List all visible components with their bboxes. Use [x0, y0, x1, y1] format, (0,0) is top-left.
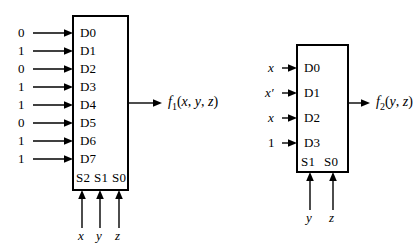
- mux8to1-output-wire: [128, 99, 162, 107]
- mux8to1-port-s1: S1: [94, 171, 108, 184]
- mux8to1-input-value-d6: 1: [18, 134, 25, 147]
- mux4to1-port-d0: D0: [304, 61, 320, 74]
- mux8to1-input-value-d4: 1: [18, 98, 25, 111]
- multiplexer-diagram-figure: 0 1 0 1 1 0 1 1 D0 D1 D2 D3 D4 D5 D6 D7 …: [0, 0, 420, 244]
- mux4to1-input-value-d2: x: [268, 111, 274, 124]
- mux8to1-output-paren-close: ): [213, 94, 218, 109]
- mux8to1-output-comma-1: ,: [188, 94, 195, 109]
- diagram-vector-layer: [0, 0, 420, 244]
- mux8to1-input-value-d5: 0: [18, 116, 25, 129]
- mux4to1-select-input-y: y: [306, 211, 312, 224]
- mux8to1-input-value-d7: 1: [18, 152, 25, 165]
- mux8to1-output-label: f1(x, y, z): [168, 95, 218, 112]
- mux4to1-output-comma-1: ,: [396, 94, 403, 109]
- mux4to1-select-input-z: z: [329, 211, 334, 224]
- mux8to1-select-input-x: x: [78, 229, 84, 242]
- mux8to1-select-wires: [78, 190, 123, 228]
- mux8to1-port-s0: S0: [112, 171, 126, 184]
- mux4to1-input-value-d1: x′: [265, 86, 274, 99]
- mux8to1-port-d6: D6: [80, 134, 96, 147]
- mux8to1-input-value-d2: 0: [18, 62, 25, 75]
- mux8to1-port-d7: D7: [80, 152, 96, 165]
- mux4to1-output-wire: [348, 99, 370, 107]
- mux8to1-port-s2: S2: [76, 171, 90, 184]
- mux8to1-select-input-z: z: [115, 229, 120, 242]
- mux8to1-data-input-wires: [33, 29, 73, 163]
- mux4to1-output-paren-close: ): [408, 94, 413, 109]
- mux8to1-input-value-d1: 1: [18, 44, 25, 57]
- mux8to1-port-d3: D3: [80, 80, 96, 93]
- mux4to1-output-label: f2(y, z): [376, 95, 413, 112]
- mux4to1-data-input-wires: [282, 64, 297, 147]
- mux4to1-input-value-d0: x: [268, 61, 274, 74]
- mux4to1-port-s1: S1: [301, 155, 315, 168]
- mux4to1-port-d1: D1: [304, 86, 320, 99]
- mux4to1-input-value-d3: 1: [268, 136, 275, 149]
- mux8to1-port-d1: D1: [80, 44, 96, 57]
- mux8to1-input-value-d0: 0: [18, 26, 25, 39]
- mux4to1-port-d2: D2: [304, 111, 320, 124]
- mux8to1-port-d2: D2: [80, 62, 96, 75]
- mux4to1-select-wires: [306, 172, 337, 210]
- mux8to1-port-d4: D4: [80, 98, 96, 111]
- mux8to1-port-d5: D5: [80, 116, 96, 129]
- mux8to1-port-d0: D0: [80, 26, 96, 39]
- mux4to1-port-d3: D3: [304, 136, 320, 149]
- mux4to1-port-s0: S0: [324, 155, 338, 168]
- mux8to1-select-input-y: y: [96, 229, 102, 242]
- mux8to1-output-comma-2: ,: [201, 94, 208, 109]
- mux8to1-input-value-d3: 1: [18, 80, 25, 93]
